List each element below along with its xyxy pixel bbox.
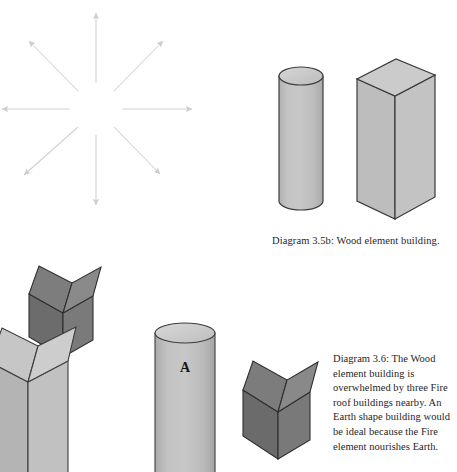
arrow-southwest [24,127,78,175]
diagram-page: Diagram 3.5b: Wood element building. [0,0,457,472]
arrow-group [2,13,192,205]
caption-diagram-3-6: Diagram 3.6: The Wood element building i… [333,352,455,454]
arrow-northeast [114,41,163,91]
wood-element-rectangular-building [357,59,435,219]
wood-element-cylinder-building [279,67,323,210]
fire-roof-building-dark-right [243,361,318,459]
arrow-southeast [114,127,160,174]
cylinder-body [279,76,323,210]
eight-direction-arrow-burst [0,4,200,214]
box-right-face [395,75,435,219]
fire-roof-building-light-tall [0,327,76,472]
cylinder-top-ellipse [279,67,323,85]
cylinder-a-top-ellipse [155,323,215,343]
wood-cylinder-building-a: A [155,323,215,472]
diagram-3-6-scene: A [0,262,330,472]
cylinder-a-body [155,333,215,472]
arrow-northwest [29,41,78,91]
box-left-face [357,79,395,219]
building-a-label: A [180,360,191,375]
caption-diagram-3-5b: Diagram 3.5b: Wood element building. [272,234,457,247]
wood-element-buildings-figure [265,55,457,235]
